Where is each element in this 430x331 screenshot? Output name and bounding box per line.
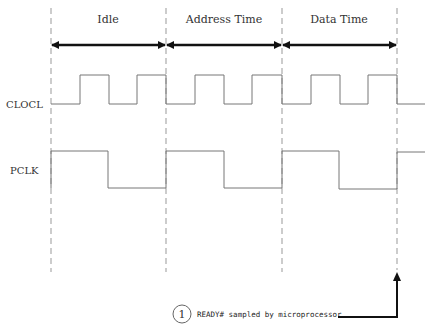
phase-boundaries <box>51 8 397 272</box>
annotation-pointer-arrowhead <box>393 272 401 281</box>
annotation-pointer-line <box>338 280 397 317</box>
phase-label-data: Data Time <box>310 13 368 26</box>
pclk-waveform <box>51 151 425 189</box>
clocl-waveform <box>51 75 425 104</box>
signal-label-clocl: CLOCL <box>6 99 43 110</box>
annotation-text: READY# sampled by microprocessor <box>197 310 342 319</box>
phase-label-idle: Idle <box>97 13 118 26</box>
phase-label-address: Address Time <box>185 13 262 26</box>
annotation-number: 1 <box>179 308 186 321</box>
signal-label-pclk: PCLK <box>10 165 39 176</box>
timing-diagram: Idle Address Time Data Time CLOCL PCLK 1… <box>0 0 430 331</box>
